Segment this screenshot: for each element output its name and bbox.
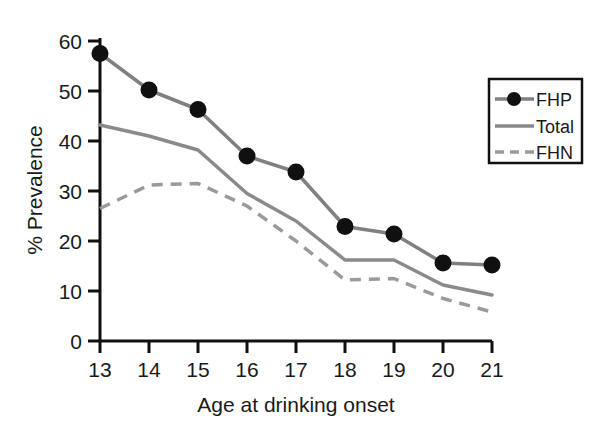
x-tick-label-14: 14 [137,358,161,381]
x-tick-label-18: 18 [333,358,356,381]
y-tick-label-50: 50 [59,80,82,103]
data-point-19 [386,226,403,243]
data-point-20 [435,255,452,272]
x-tick-label-19: 19 [382,358,405,381]
legend: FHP Total FHN [489,79,582,163]
data-point-17 [288,164,305,181]
y-axis-title: % Prevalence [23,125,46,255]
line-chart: 60 50 40 30 20 10 0 % Prevalence [0,0,603,434]
data-point-15 [190,101,207,118]
x-tick-label-20: 20 [431,358,454,381]
figure-container: 60 50 40 30 20 10 0 % Prevalence [0,0,603,434]
data-point-18 [337,218,354,235]
legend-label-fhp: FHP [536,90,572,110]
y-tick-label-20: 20 [59,230,82,253]
y-tick-label-0: 0 [70,330,82,353]
x-tick-label-17: 17 [284,358,307,381]
legend-label-fhn: FHN [536,143,573,163]
data-point-16 [239,148,256,165]
x-tick-label-21: 21 [480,358,503,381]
legend-label-total: Total [536,117,574,137]
x-tick-label-13: 13 [88,358,111,381]
legend-swatch-marker-fhp [507,92,521,106]
data-point-13 [92,45,109,62]
y-tick-label-30: 30 [59,180,82,203]
y-tick-label-60: 60 [59,30,82,53]
y-tick-label-40: 40 [59,130,82,153]
x-tick-label-16: 16 [235,358,258,381]
data-point-14 [141,82,158,99]
data-point-21 [484,257,501,274]
x-axis-title: Age at drinking onset [197,393,394,416]
x-tick-labels: 13 14 15 16 17 18 19 20 21 [88,358,503,381]
y-tick-label-10: 10 [59,280,82,303]
x-tick-label-15: 15 [186,358,209,381]
